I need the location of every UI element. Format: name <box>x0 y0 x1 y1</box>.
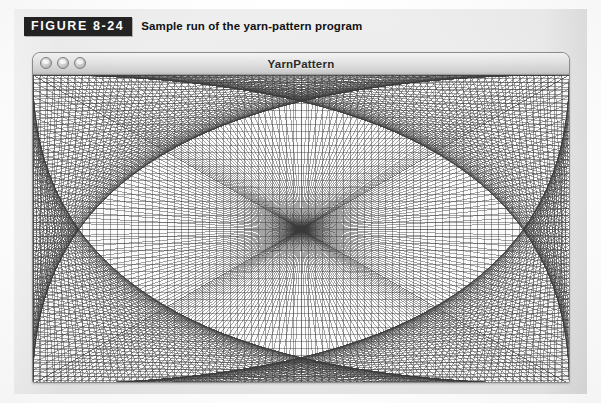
yarn-pattern-canvas <box>33 75 569 383</box>
window-title-bar[interactable]: YarnPattern <box>33 53 569 75</box>
zoom-button[interactable] <box>74 57 86 69</box>
window-title: YarnPattern <box>33 58 569 70</box>
minimize-button[interactable] <box>57 57 69 69</box>
window-controls <box>40 57 86 69</box>
yarnpattern-window[interactable]: YarnPattern <box>32 52 570 383</box>
figure-caption-text: Sample run of the yarn-pattern program <box>141 20 362 32</box>
figure-number-badge: FIGURE 8-24 <box>24 17 132 36</box>
close-button[interactable] <box>40 57 52 69</box>
yarn-pattern-drawing <box>33 75 569 383</box>
figure-caption-row: FIGURE 8-24 Sample run of the yarn-patte… <box>24 16 362 36</box>
scanned-page: FIGURE 8-24 Sample run of the yarn-patte… <box>0 0 601 403</box>
